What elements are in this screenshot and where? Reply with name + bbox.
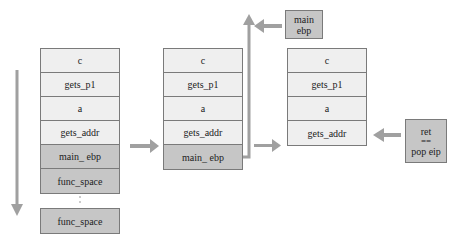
stack-cell-gets-p1: gets_p1 bbox=[41, 73, 119, 97]
stack-frame-3: c gets_p1 a gets_addr bbox=[287, 48, 367, 146]
stack-cell-gets-addr: gets_addr bbox=[41, 121, 119, 145]
stack-cell-gets-p1: gets_p1 bbox=[288, 73, 366, 97]
stack-cell-c: c bbox=[164, 49, 242, 73]
popped-box-line2: ebp bbox=[297, 25, 311, 36]
popped-main-ebp-box: main ebp bbox=[285, 10, 323, 39]
stack-cell-main-ebp: main_ ebp bbox=[164, 145, 242, 169]
stack-frame-2: c gets_p1 a gets_addr main_ ebp bbox=[163, 48, 243, 170]
stack-cell-c: c bbox=[288, 49, 366, 73]
left-arrow-icon bbox=[373, 128, 401, 142]
stack-cell-main-ebp: main_ ebp bbox=[41, 145, 119, 169]
stack-cell-a: a bbox=[41, 97, 119, 121]
ellipsis-dots bbox=[78, 193, 82, 206]
pop-eip-label: pop eip bbox=[411, 146, 441, 157]
stack-frame-1-bottom: func_space bbox=[40, 208, 120, 234]
stack-cell-func-space: func_space bbox=[41, 209, 119, 233]
right-arrow-icon bbox=[254, 139, 281, 152]
ret-label: ret bbox=[421, 126, 432, 137]
stack-growth-down-arrow-icon bbox=[11, 70, 23, 216]
stack-cell-c: c bbox=[41, 49, 119, 73]
pop-ebp-up-arrow-icon bbox=[243, 14, 255, 157]
left-arrow-icon bbox=[254, 19, 282, 33]
stack-frame-1: c gets_p1 a gets_addr main_ ebp func_spa… bbox=[40, 48, 120, 194]
stack-cell-gets-addr: gets_addr bbox=[164, 121, 242, 145]
right-arrow-icon bbox=[130, 139, 159, 153]
stack-cell-a: a bbox=[164, 97, 242, 121]
popped-box-line1: main bbox=[294, 14, 314, 25]
stack-cell-gets-p1: gets_p1 bbox=[164, 73, 242, 97]
ret-pop-eip-box: ret == pop eip bbox=[405, 119, 447, 163]
stack-cell-func-space: func_space bbox=[41, 169, 119, 193]
stack-cell-gets-addr: gets_addr bbox=[288, 121, 366, 145]
stack-cell-a: a bbox=[288, 97, 366, 121]
equals-label: == bbox=[421, 137, 431, 146]
